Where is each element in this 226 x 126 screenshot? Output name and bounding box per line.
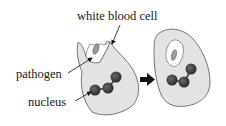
nucleus-label: nucleus <box>28 96 66 109</box>
phagocytosis-diagram: white blood cell pathogen nucleus <box>0 0 226 126</box>
right-arrow-icon <box>140 73 155 86</box>
white-blood-cell-pointer <box>112 25 120 44</box>
white-blood-cell-engulfed <box>154 29 210 106</box>
pathogen-label: pathogen <box>16 68 62 81</box>
white-blood-cell-engulfing <box>77 41 138 114</box>
white-blood-cell-label: white blood cell <box>77 10 158 23</box>
cell-body-right <box>154 29 210 106</box>
